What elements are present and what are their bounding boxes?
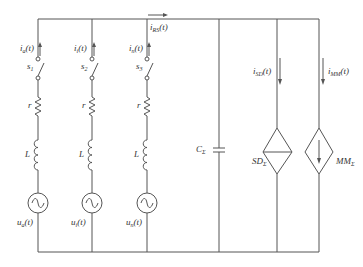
resistor-label: r: [28, 100, 32, 110]
resistor-icon: [35, 97, 41, 116]
inductor-icon: [34, 140, 38, 170]
switch-icon[interactable]: [147, 63, 153, 76]
switch-terminal: [90, 57, 94, 61]
bus-current-arrow: [148, 13, 168, 17]
source-label: un(t): [126, 217, 142, 228]
branch-current-label: ii(t): [74, 43, 87, 54]
inductor-icon: [143, 140, 147, 170]
switch-terminal: [36, 76, 40, 80]
switch-label: s1: [27, 61, 34, 72]
switch-terminal: [90, 76, 94, 80]
branch-current-label: ia(t): [20, 43, 34, 54]
resistor-label: r: [82, 100, 86, 110]
source-label: ui(t): [71, 217, 86, 228]
switch-label: s2: [81, 61, 88, 72]
capacitor-label: CΣ: [196, 144, 206, 155]
switch-icon[interactable]: [92, 63, 98, 76]
mm-branch: [305, 19, 333, 252]
switch-label: s3: [136, 61, 143, 72]
resistor-icon: [89, 97, 95, 116]
sd-label: SDΣ: [252, 156, 267, 167]
inductor-icon: [88, 140, 92, 170]
resistor-icon: [144, 97, 150, 116]
switch-terminal: [36, 57, 40, 61]
mm-current-label: iMM(t): [328, 66, 349, 77]
inductor-label: L: [24, 149, 30, 159]
resistor-label: r: [137, 100, 141, 110]
capacitor-branch: [213, 19, 225, 252]
source-label: ua(t): [17, 217, 33, 228]
switch-icon[interactable]: [38, 63, 44, 76]
inductor-label: L: [78, 149, 84, 159]
switch-terminal: [145, 76, 149, 80]
bus-current-label: iRS(t): [150, 22, 168, 33]
circuit-diagram: iRS(t) ia(t)s1rLua(t)ii(t)s2rLui(t)in(t)…: [0, 0, 363, 267]
mm-label: MMΣ: [335, 156, 355, 167]
sd-branch: [263, 19, 292, 252]
sd-current-label: iSD(t): [253, 66, 271, 77]
sd-dependent-source-icon: [263, 128, 292, 174]
branch-current-label: in(t): [129, 43, 143, 54]
switch-terminal: [145, 57, 149, 61]
inductor-label: L: [133, 149, 139, 159]
